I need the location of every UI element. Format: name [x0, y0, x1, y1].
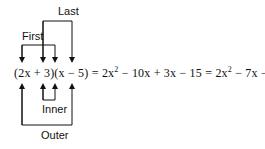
first-bracket [22, 45, 55, 60]
equation-rhs: − 7x − 15 [232, 66, 265, 80]
label-first: First [22, 30, 43, 42]
label-inner: Inner [42, 103, 67, 115]
last-bracket [43, 21, 72, 60]
equation-lhs: (2x + 3)(x − 5) [14, 66, 89, 80]
equation-middle: − 10x + 3x − 15 = 2x [119, 66, 228, 80]
equation-part: = 2x [89, 66, 115, 80]
label-last: Last [58, 5, 79, 17]
inner-bracket [43, 86, 55, 100]
label-outer: Outer [41, 129, 69, 141]
foil-equation: (2x + 3)(x − 5) = 2x2 − 10x + 3x − 15 = … [14, 65, 265, 81]
